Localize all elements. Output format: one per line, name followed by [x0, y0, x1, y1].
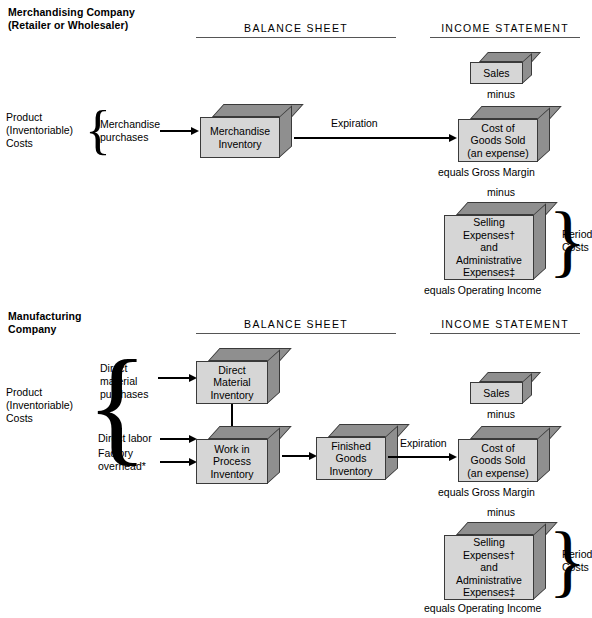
equals-gross-margin-merchandising: equals Gross Margin: [438, 166, 535, 179]
minus-label-1-manufacturing: minus: [452, 408, 550, 421]
box-front-face: Cost of Goods Sold (an expense): [458, 119, 538, 162]
box-side-face: [537, 107, 550, 162]
box-label: Sales: [481, 67, 511, 79]
box-front-face: Finished Goods Inventory: [316, 437, 386, 480]
box-label: Finished Goods Inventory: [327, 440, 374, 477]
box-label: Work in Process Inventory: [208, 443, 255, 480]
manufacturing-input-label-2: Factory overhead*: [98, 447, 146, 473]
arrow-direct-material-to-inventory: [158, 377, 190, 379]
box-merchandise-inventory: Merchandise Inventory: [200, 104, 292, 158]
box-label: Merchandise Inventory: [208, 125, 272, 150]
merchandising-period-costs-label: Period Costs: [562, 228, 592, 254]
merchandising-product-costs-label: Product (Inventoriable) Costs: [6, 111, 73, 150]
manufacturing-balance-sheet-header: BALANCE SHEET: [196, 318, 396, 334]
arrow-expiration-merchandising: [294, 137, 450, 139]
arrow-purchases-to-inventory: [160, 130, 192, 132]
merchandising-input-label-0: Merchandise purchases: [100, 118, 160, 144]
manufacturing-period-costs-label: Period Costs: [562, 548, 592, 574]
manufacturing-product-costs-label: Product (Inventoriable) Costs: [6, 386, 73, 425]
manufacturing-company-title: Manufacturing Company: [8, 310, 82, 335]
box-side-face: [533, 203, 546, 280]
manufacturing-input-label-1: Direct labor: [98, 432, 152, 445]
box-label: Cost of Goods Sold (an expense): [465, 122, 530, 159]
arrow-material-to-wip: [231, 404, 233, 428]
box-label: Cost of Goods Sold (an expense): [465, 442, 530, 479]
box-cost-of-goods-sold-manufacturing: Cost of Goods Sold (an expense): [458, 426, 550, 482]
minus-label-2-merchandising: minus: [452, 186, 550, 199]
box-sales-manufacturing: Sales: [470, 372, 532, 404]
box-front-face: Direct Material Inventory: [196, 361, 268, 404]
box-side-face: [267, 427, 280, 484]
box-side-face: [267, 349, 280, 404]
arrow-wip-to-finished-goods: [282, 455, 310, 457]
equals-operating-income-merchandising: equals Operating Income: [424, 284, 541, 297]
merchandising-title-line2: (Retailer or Wholesaler): [8, 19, 135, 32]
box-selling-admin-expenses-merchandising: Selling Expenses† and Administrative Exp…: [444, 202, 546, 280]
balance-sheet-underline: [196, 333, 396, 334]
manufacturing-expiration-label: Expiration: [400, 437, 447, 450]
balance-sheet-underline: [196, 37, 396, 38]
box-work-in-process-inventory: Work in Process Inventory: [196, 426, 280, 484]
box-cost-of-goods-sold-merchandising: Cost of Goods Sold (an expense): [458, 106, 550, 162]
box-selling-admin-expenses-manufacturing: Selling Expenses† and Administrative Exp…: [444, 522, 546, 600]
box-front-face: Cost of Goods Sold (an expense): [458, 439, 538, 482]
box-side-face: [537, 427, 550, 482]
box-front-face: Sales: [470, 62, 523, 84]
minus-label-2-manufacturing: minus: [452, 506, 550, 519]
box-label: Sales: [481, 387, 511, 399]
arrow-factory-overhead-to-wip: [160, 461, 190, 463]
merchandising-income-statement-header: INCOME STATEMENT: [430, 22, 580, 38]
box-label: Selling Expenses† and Administrative Exp…: [454, 536, 524, 598]
box-direct-material-inventory: Direct Material Inventory: [196, 348, 280, 404]
income-statement-label: INCOME STATEMENT: [430, 22, 580, 34]
manufacturing-income-statement-header: INCOME STATEMENT: [430, 318, 580, 334]
manufacturing-title-line1: Manufacturing: [8, 310, 82, 323]
box-label: Selling Expenses† and Administrative Exp…: [454, 216, 524, 278]
merchandising-company-title: Merchandising Company (Retailer or Whole…: [8, 6, 135, 31]
income-statement-label: INCOME STATEMENT: [430, 318, 580, 330]
box-sales-merchandising: Sales: [470, 52, 532, 84]
balance-sheet-label: BALANCE SHEET: [196, 318, 396, 330]
merchandising-balance-sheet-header: BALANCE SHEET: [196, 22, 396, 38]
equals-gross-margin-manufacturing: equals Gross Margin: [438, 486, 535, 499]
box-finished-goods-inventory: Finished Goods Inventory: [316, 424, 398, 480]
income-statement-underline: [430, 37, 580, 38]
equals-operating-income-manufacturing: equals Operating Income: [424, 602, 541, 615]
manufacturing-input-label-0: Direct material purchases: [100, 362, 148, 401]
minus-label-1-merchandising: minus: [452, 88, 550, 101]
box-front-face: Work in Process Inventory: [196, 439, 268, 484]
box-label: Direct Material Inventory: [208, 364, 255, 401]
merchandising-title-line1: Merchandising Company: [8, 6, 135, 19]
box-front-face: Merchandise Inventory: [200, 117, 280, 158]
merchandising-expiration-label: Expiration: [331, 117, 378, 130]
box-front-face: Selling Expenses† and Administrative Exp…: [444, 535, 534, 600]
box-front-face: Sales: [470, 382, 523, 404]
arrow-expiration-manufacturing: [388, 456, 450, 458]
box-side-face: [385, 425, 398, 480]
balance-sheet-label: BALANCE SHEET: [196, 22, 396, 34]
income-statement-underline: [430, 333, 580, 334]
arrow-direct-labor-to-wip: [160, 438, 190, 440]
box-side-face: [533, 523, 546, 600]
box-front-face: Selling Expenses† and Administrative Exp…: [444, 215, 534, 280]
manufacturing-title-line2: Company: [8, 323, 82, 336]
